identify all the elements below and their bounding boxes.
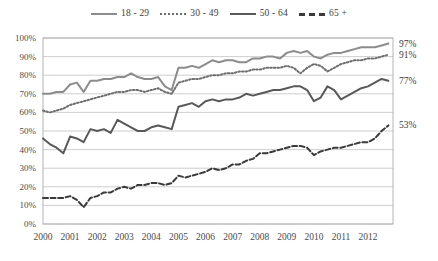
x-axis-tick-label: 2009 bbox=[277, 232, 296, 242]
y-axis-tick-label: 70% bbox=[2, 89, 36, 99]
y-axis-tick-label: 40% bbox=[2, 145, 36, 155]
y-axis-tick-label: 50% bbox=[2, 126, 36, 136]
x-axis-tick-label: 2010 bbox=[304, 232, 323, 242]
legend-swatch-icon bbox=[299, 9, 325, 17]
y-axis-tick-label: 10% bbox=[2, 200, 36, 210]
legend-item-4[interactable]: 65 + bbox=[299, 8, 347, 18]
x-axis-tick-label: 2001 bbox=[61, 232, 80, 242]
plot-svg bbox=[0, 30, 438, 230]
series-end-label-2: 91% bbox=[399, 50, 416, 60]
x-axis-tick-label: 2011 bbox=[332, 232, 351, 242]
x-axis-tick-label: 2005 bbox=[169, 232, 188, 242]
legend-label: 65 + bbox=[329, 8, 347, 18]
legend-label: 30 - 49 bbox=[190, 8, 218, 18]
y-axis-tick-label: 0% bbox=[2, 219, 36, 229]
legend-item-2[interactable]: 30 - 49 bbox=[160, 8, 218, 18]
line-chart: 18 - 2930 - 4950 - 6465 + 0%10%20%30%40%… bbox=[0, 0, 438, 261]
series-end-label-4: 53% bbox=[399, 120, 416, 130]
x-axis-tick-label: 2000 bbox=[34, 232, 53, 242]
y-axis-tick-label: 100% bbox=[2, 33, 36, 43]
series-line-1 bbox=[43, 44, 388, 94]
series-end-label-3: 77% bbox=[399, 76, 416, 86]
legend-swatch-icon bbox=[230, 9, 256, 17]
x-axis-tick-label: 2006 bbox=[196, 232, 215, 242]
y-axis-tick-label: 60% bbox=[2, 107, 36, 117]
x-axis-tick-label: 2002 bbox=[88, 232, 107, 242]
legend-label: 18 - 29 bbox=[121, 8, 149, 18]
y-axis-tick-label: 80% bbox=[2, 70, 36, 80]
legend-swatch-icon bbox=[91, 9, 117, 17]
legend-item-1[interactable]: 18 - 29 bbox=[91, 8, 149, 18]
legend-item-3[interactable]: 50 - 64 bbox=[230, 8, 288, 18]
plot-area bbox=[0, 30, 438, 230]
x-axis-tick-label: 2007 bbox=[223, 232, 242, 242]
x-axis-tick-label: 2008 bbox=[250, 232, 269, 242]
y-axis-tick-label: 20% bbox=[2, 182, 36, 192]
series-end-label-1: 97% bbox=[399, 39, 416, 49]
y-axis-tick-label: 30% bbox=[2, 163, 36, 173]
legend-swatch-icon bbox=[160, 9, 186, 17]
series-line-2 bbox=[43, 55, 388, 113]
x-axis-tick-label: 2012 bbox=[359, 232, 378, 242]
series-line-4 bbox=[43, 125, 388, 207]
chart-legend: 18 - 2930 - 4950 - 6465 + bbox=[0, 8, 438, 18]
series-line-3 bbox=[43, 79, 388, 153]
legend-label: 50 - 64 bbox=[260, 8, 288, 18]
y-axis-tick-label: 90% bbox=[2, 52, 36, 62]
x-axis-tick-label: 2003 bbox=[115, 232, 134, 242]
x-axis-tick-label: 2004 bbox=[142, 232, 161, 242]
